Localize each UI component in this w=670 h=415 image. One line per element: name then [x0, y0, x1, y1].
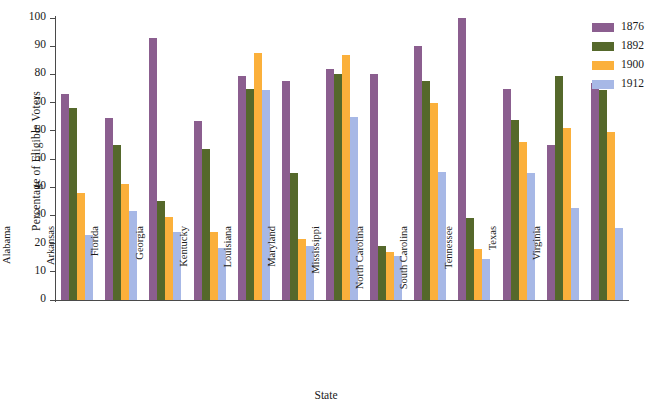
x-axis-title-text: State: [315, 389, 338, 401]
bar-1900-north-carolina[interactable]: [430, 103, 438, 300]
bar-1900-arkansas[interactable]: [121, 184, 129, 300]
x-tick-label: Tennessee: [443, 226, 454, 306]
x-tick-label: Alabama: [1, 226, 12, 306]
x-tick-label: Texas: [487, 226, 498, 306]
bar-1892-kentucky[interactable]: [246, 89, 254, 301]
bar-1892-alabama[interactable]: [69, 108, 77, 300]
bar-1900-tennessee[interactable]: [519, 142, 527, 300]
legend-label: 1900: [621, 59, 644, 71]
bar-1892-north-carolina[interactable]: [422, 81, 430, 300]
x-tick-label: Louisiana: [222, 226, 233, 306]
bar-1892-south-carolina[interactable]: [466, 218, 474, 300]
bar-1876-south-carolina[interactable]: [458, 18, 466, 300]
bar-1876-tennessee[interactable]: [503, 89, 511, 301]
chart-legend: 1876189219001912: [592, 20, 670, 96]
legend-swatch: [592, 23, 614, 32]
legend-item-1900[interactable]: 1900: [592, 58, 670, 72]
bar-1876-maryland[interactable]: [326, 69, 334, 300]
bar-group: [503, 18, 535, 300]
y-tick-label: 50: [35, 151, 47, 163]
bar-group: [458, 18, 490, 300]
bar-1876-georgia[interactable]: [194, 121, 202, 300]
bar-1892-louisiana[interactable]: [290, 173, 298, 300]
bar-1876-florida[interactable]: [149, 38, 157, 300]
legend-label: 1892: [621, 40, 644, 52]
bar-1912-virginia[interactable]: [615, 228, 623, 300]
y-tick-label: 90: [35, 38, 47, 50]
legend-swatch: [592, 42, 614, 51]
bar-group: [547, 18, 579, 300]
bar-group: [414, 18, 446, 300]
legend-item-1912[interactable]: 1912: [592, 77, 670, 91]
bar-1900-alabama[interactable]: [77, 193, 85, 300]
bar-1892-virginia[interactable]: [599, 90, 607, 300]
bar-1900-louisiana[interactable]: [298, 239, 306, 300]
bar-1876-virginia[interactable]: [591, 83, 599, 300]
legend-label: 1876: [621, 21, 644, 33]
bar-group: [238, 18, 270, 300]
x-tick-label: Florida: [89, 226, 100, 306]
bar-group: [194, 18, 226, 300]
voter-turnout-bar-chart: Percentage of Eligible Voters 0102030405…: [0, 0, 670, 415]
y-tick-label: 100: [29, 10, 46, 22]
legend-swatch: [592, 61, 614, 70]
bar-1912-texas[interactable]: [571, 208, 579, 300]
bar-1892-maryland[interactable]: [334, 74, 342, 300]
bar-1876-arkansas[interactable]: [105, 118, 113, 300]
bar-group: [149, 18, 181, 300]
bar-1876-louisiana[interactable]: [282, 81, 290, 300]
y-tick-label: 40: [35, 179, 47, 191]
bar-1876-texas[interactable]: [547, 145, 555, 300]
bar-1876-alabama[interactable]: [61, 94, 69, 300]
bar-1900-maryland[interactable]: [342, 55, 350, 300]
x-tick-label: Maryland: [266, 226, 277, 306]
bar-1876-kentucky[interactable]: [238, 76, 246, 300]
legend-item-1876[interactable]: 1876: [592, 20, 670, 34]
bar-1876-mississippi[interactable]: [370, 74, 378, 300]
y-tick-label: 60: [35, 123, 47, 135]
y-tick-label: 80: [35, 66, 47, 78]
bar-1900-mississippi[interactable]: [386, 252, 394, 300]
legend-swatch: [592, 80, 614, 89]
bar-1900-georgia[interactable]: [210, 232, 218, 300]
bar-1900-florida[interactable]: [165, 217, 173, 300]
x-tick-label: Mississippi: [310, 226, 321, 306]
x-tick-label: North Carolina: [354, 226, 365, 306]
bar-1892-texas[interactable]: [555, 76, 563, 300]
bar-1892-arkansas[interactable]: [113, 145, 121, 300]
x-axis-title: State: [0, 389, 670, 401]
bar-1892-georgia[interactable]: [202, 149, 210, 300]
y-tick-label: 30: [35, 207, 47, 219]
legend-item-1892[interactable]: 1892: [592, 39, 670, 53]
bar-1892-mississippi[interactable]: [378, 246, 386, 300]
x-tick-label: Georgia: [134, 226, 145, 306]
bar-group: [105, 18, 137, 300]
legend-label: 1912: [621, 78, 644, 90]
bar-1900-virginia[interactable]: [607, 132, 615, 300]
bar-1892-florida[interactable]: [157, 201, 165, 300]
x-tick-label: Virginia: [531, 226, 542, 306]
bar-1876-north-carolina[interactable]: [414, 46, 422, 300]
bar-1900-texas[interactable]: [563, 128, 571, 300]
x-tick-label: Arkansas: [45, 226, 56, 306]
bar-1900-kentucky[interactable]: [254, 53, 262, 300]
bar-1892-tennessee[interactable]: [511, 120, 519, 300]
x-tick-label: South Carolina: [398, 226, 409, 306]
y-tick-label: 70: [35, 95, 47, 107]
x-tick-label: Kentucky: [178, 226, 189, 306]
bar-1900-south-carolina[interactable]: [474, 249, 482, 300]
